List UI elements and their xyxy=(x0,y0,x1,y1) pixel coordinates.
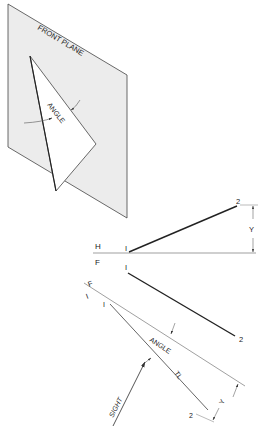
aux-point-2: 2 xyxy=(189,412,193,419)
auxiliary-view: F I I TL 2 ANGLE Y SIGHT xyxy=(84,279,245,426)
front-point-2: 2 xyxy=(239,335,243,344)
top-point-2: 2 xyxy=(236,197,240,206)
aux-angle-arrow-1 xyxy=(171,323,175,334)
true-length-line xyxy=(110,304,208,410)
sight-label: SIGHT xyxy=(108,396,124,419)
aux-y-ext-1 xyxy=(196,414,214,422)
top-point-1: I xyxy=(125,244,127,253)
aux-fold-label-1: I xyxy=(85,292,90,301)
top-view-line xyxy=(129,206,237,252)
aux-point-1: I xyxy=(103,301,105,308)
fold-label-h: H xyxy=(95,242,101,251)
aux-y-label: Y xyxy=(218,398,227,406)
aux-y-dim-top xyxy=(233,384,238,397)
fold-label-f: F xyxy=(95,258,100,267)
pictorial-view: FRONT PLANE ANGLE xyxy=(8,4,127,218)
front-point-1: I xyxy=(125,263,127,272)
front-view-line xyxy=(128,273,235,336)
fold-line-f1 xyxy=(84,283,245,386)
aux-angle-label: ANGLE xyxy=(148,336,172,355)
tl-label: TL xyxy=(173,370,183,381)
descriptive-geometry-figure: FRONT PLANE ANGLE H F I 2 Y I 2 F I I TL xyxy=(0,0,261,434)
aux-y-dim-bottom xyxy=(213,408,219,420)
orthographic-views: H F I 2 Y I 2 xyxy=(93,197,258,344)
y-dim-label: Y xyxy=(249,225,254,234)
sight-arrow xyxy=(113,362,145,426)
aux-angle-arrow-2 xyxy=(142,358,151,365)
aux-fold-label-f: F xyxy=(87,279,95,289)
